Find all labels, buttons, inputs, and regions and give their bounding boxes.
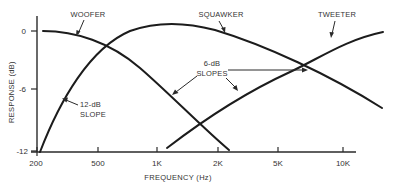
y-tick-label-0: 0 bbox=[22, 27, 27, 36]
x-axis-title: FREQUENCY (Hz) bbox=[144, 173, 212, 182]
x-tick-label-5k: 5K bbox=[273, 159, 283, 168]
six-db-label-line2: SLOPES bbox=[196, 69, 227, 78]
x-tick-label-10k: 10K bbox=[336, 159, 351, 168]
x-tick-label-200: 200 bbox=[29, 159, 43, 168]
twelve-db-label-line1: 12-dB bbox=[80, 100, 101, 109]
six-db-label-line1: 6-dB bbox=[204, 59, 221, 68]
twelve-db-label-line2: SLOPE bbox=[80, 110, 106, 119]
six-db-arrowhead-right bbox=[302, 68, 308, 73]
tweeter-label: TWEETER bbox=[318, 10, 356, 19]
tweeter-arrowhead bbox=[330, 32, 335, 38]
curves bbox=[40, 24, 383, 152]
crossover-response-chart: 0 -6 -12 200 500 1K 2K 5K 10K RESPONSE (… bbox=[0, 0, 393, 196]
axes: 0 -6 -12 200 500 1K 2K 5K 10K RESPONSE (… bbox=[7, 16, 356, 182]
x-tick-label-1k: 1K bbox=[152, 159, 162, 168]
y-tick-label-minus6: -6 bbox=[19, 85, 27, 94]
woofer-label: WOOFER bbox=[71, 10, 106, 19]
y-tick-label-minus12: -12 bbox=[16, 147, 28, 156]
woofer-curve bbox=[43, 31, 229, 150]
squawker-label: SQUAWKER bbox=[198, 10, 243, 19]
x-tick-label-2k: 2K bbox=[213, 159, 223, 168]
x-tick-label-500: 500 bbox=[91, 159, 105, 168]
six-db-leader-left bbox=[176, 76, 197, 92]
annotations: WOOFER SQUAWKER TWEETER 6-dB SLOPES 12-d… bbox=[62, 10, 356, 119]
twelve-db-leader bbox=[66, 100, 78, 105]
tweeter-leader bbox=[332, 21, 335, 34]
y-axis-title: RESPONSE (dB) bbox=[7, 61, 16, 123]
